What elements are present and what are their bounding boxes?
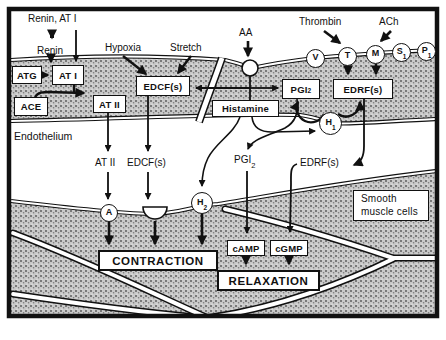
box-edrf: EDRF(s) [333, 79, 393, 99]
aa-membrane-junction [242, 60, 258, 76]
box-pgi2: PGI2 [282, 79, 320, 99]
receptor-p1: P1 [417, 42, 436, 61]
box-at2: AT II [93, 95, 126, 113]
label-aa: AA [239, 27, 252, 38]
receptor-a: A [100, 204, 118, 222]
receptor-h2: H2 [191, 192, 213, 214]
arrow-histamine-to-h2 [202, 117, 240, 186]
label-edrf-interstitial: EDRF(s) [300, 157, 339, 168]
box-ace: ACE [14, 97, 48, 116]
box-cgmp: cGMP [270, 240, 308, 256]
arrow-to-at2-box [48, 92, 84, 93]
label-endothelium: Endothelium [14, 130, 72, 142]
label-at2-interstitial: AT II [95, 157, 115, 168]
box-atg: ATG [12, 66, 42, 84]
box-edcf: EDCF(s) [136, 76, 190, 96]
label-pgi2-interstitial: PGI2 [234, 154, 255, 168]
receptor-t: T [338, 47, 357, 66]
box-histamine: Histamine [212, 100, 279, 117]
receptor-v: V [306, 49, 325, 68]
box-relaxation: RELAXATION [217, 270, 320, 291]
label-ach: ACh [379, 16, 398, 27]
receptor-s1: S1 [392, 43, 411, 62]
label-thrombin: Thrombin [299, 16, 341, 27]
box-smooth-muscle-cells: Smoothmuscle cells [353, 190, 429, 221]
receptor-m: M [366, 45, 385, 64]
label-hypoxia: Hypoxia [105, 42, 141, 53]
box-contraction: CONTRACTION [98, 250, 218, 271]
arrow-thrombin-to-t [324, 31, 340, 43]
arrow-histamine-to-h1 [252, 117, 315, 132]
arrow-ach-to-m [381, 31, 391, 41]
box-at1: AT I [52, 65, 84, 85]
label-edcf-interstitial: EDCF(s) [127, 157, 166, 168]
label-renin-at1: Renin, AT I [28, 13, 77, 24]
receptor-h1: H1 [319, 112, 342, 135]
box-camp: cAMP [227, 240, 265, 256]
label-stretch: Stretch [170, 42, 202, 53]
label-renin: Renin [37, 45, 63, 56]
endothelium-diagram: Renin, AT I Renin Hypoxia Stretch AA Thr… [0, 0, 446, 340]
